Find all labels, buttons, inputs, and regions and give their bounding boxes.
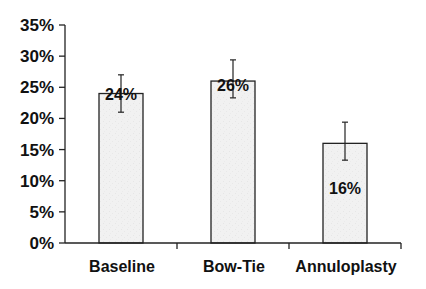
category-label: Annuloplasty [295, 258, 396, 275]
bar-annuloplasty: 16% [323, 122, 367, 243]
y-tick-label: 5% [29, 203, 54, 222]
value-label: 24% [105, 86, 137, 103]
bars: 24%26%16% [99, 60, 367, 243]
value-label: 16% [329, 180, 361, 197]
y-tick-label: 15% [20, 141, 54, 160]
y-tick-label: 25% [20, 78, 54, 97]
x-axis-ticks [177, 243, 401, 249]
value-label: 26% [217, 77, 249, 94]
y-tick-label: 35% [20, 16, 54, 35]
bar-rect [99, 94, 143, 243]
bar-rect [211, 81, 255, 243]
bar-bow-tie: 26% [211, 60, 255, 243]
category-label: Bow-Tie [203, 258, 265, 275]
bar-chart: 0%5%10%15%20%25%30%35% 24%26%16% Baselin… [0, 0, 426, 289]
y-axis-ticks: 0%5%10%15%20%25%30%35% [20, 16, 65, 253]
category-labels: BaselineBow-TieAnnuloplasty [89, 258, 397, 275]
y-tick-label: 30% [20, 47, 54, 66]
y-tick-label: 10% [20, 172, 54, 191]
y-tick-label: 20% [20, 109, 54, 128]
category-label: Baseline [89, 258, 155, 275]
bar-baseline: 24% [99, 75, 143, 243]
y-tick-label: 0% [29, 234, 54, 253]
